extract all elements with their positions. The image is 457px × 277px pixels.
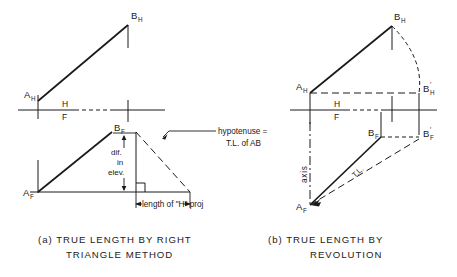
label-bf-sub: F — [121, 128, 125, 135]
line-ah-bh-b — [310, 26, 392, 93]
caption-b-line1: (b) TRUE LENGTH BY — [268, 234, 383, 245]
caption-a-line1: (a) TRUE LENGTH BY RIGHT — [38, 234, 192, 245]
label-bh-sub: H — [138, 16, 143, 23]
label-af-sub-b: F — [303, 207, 307, 214]
leader-hypotenuse-note — [163, 131, 216, 137]
label-ah-b: A — [296, 81, 303, 92]
arrowhead-dif-elev-down — [122, 186, 127, 191]
label-af-b: A — [296, 201, 303, 212]
note-hypotenuse-line2: T.L. of AB — [226, 139, 262, 148]
label-bh-b: B — [394, 11, 400, 22]
label-bf-sub-b: F — [375, 133, 379, 140]
label-bhprime-mark: ′ — [430, 81, 432, 88]
label-in: in — [117, 158, 123, 167]
note-hypotenuse-line1: hypotenuse = — [218, 127, 268, 136]
label-fold-h-a: H — [62, 99, 69, 109]
label-true-length: T.L. — [350, 165, 365, 180]
label-bhprime: B — [423, 83, 429, 94]
label-bh-sub-b: H — [401, 17, 406, 24]
figure-container: A H B H H F B F A F dif. in elev. hypote… — [0, 0, 457, 277]
label-ah: A — [24, 89, 31, 100]
label-bf-b: B — [368, 127, 374, 138]
arrowhead-dif-elev-up — [122, 135, 127, 140]
line-ah-bh — [38, 25, 128, 101]
right-angle-marker — [136, 183, 145, 192]
label-af: A — [23, 187, 30, 198]
panel-a: A H B H H F B F A F dif. in elev. hypote… — [18, 10, 268, 260]
label-bfprime-mark: ′ — [430, 126, 432, 133]
label-bhprime-sub: H — [430, 89, 435, 96]
label-length-h-proj: length of "H" proj — [142, 200, 204, 209]
label-fold-h-b: H — [334, 99, 341, 109]
line-af-bf — [38, 132, 112, 192]
label-ah-sub-b: H — [303, 87, 308, 94]
label-fold-f-b: F — [334, 112, 340, 122]
label-fold-f-a: F — [62, 112, 68, 122]
caption-a-line2: TRIANGLE METHOD — [66, 249, 173, 260]
line-af-bfprime-true-length — [310, 139, 419, 205]
label-bf: B — [114, 122, 120, 133]
label-af-sub: F — [30, 193, 34, 200]
panel-b: A H B H B H ′ H F B F B F ′ A F axis T.L… — [268, 11, 437, 260]
line-af-bf-b — [310, 137, 381, 205]
caption-b-line2: REVOLUTION — [310, 249, 382, 260]
engineering-drawing-svg: A H B H H F B F A F dif. in elev. hypote… — [0, 0, 457, 277]
label-bfprime-sub: F — [430, 134, 434, 141]
label-elev: elev. — [108, 168, 124, 177]
label-dif: dif. — [111, 148, 122, 157]
label-bh: B — [131, 10, 137, 21]
label-ah-sub: H — [31, 95, 36, 102]
revolution-arc-bh-to-bhprime — [392, 26, 420, 93]
label-bfprime: B — [423, 128, 429, 139]
label-axis: axis — [300, 165, 309, 183]
